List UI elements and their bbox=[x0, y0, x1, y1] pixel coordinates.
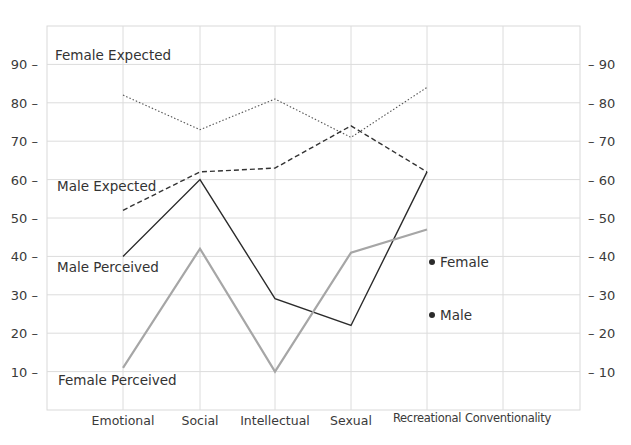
annotation-male-expected: Male Expected bbox=[57, 178, 156, 194]
grid bbox=[47, 26, 580, 410]
y-tick-right: – 20 bbox=[588, 326, 615, 341]
y-tick-right: – 50 bbox=[588, 211, 615, 226]
y-tick-right: – 70 bbox=[588, 134, 615, 149]
x-tick-label: Sexual bbox=[330, 413, 372, 428]
y-tick-left: 60 – bbox=[11, 173, 38, 188]
annotation-female-expected: Female Expected bbox=[55, 47, 171, 63]
y-axis-right: – 10– 20– 30– 40– 50– 60– 70– 80– 90 bbox=[588, 57, 615, 379]
y-tick-left: 40 – bbox=[11, 249, 38, 264]
annotation-male-perceived: Male Perceived bbox=[57, 259, 159, 275]
y-tick-left: 80 – bbox=[11, 96, 38, 111]
y-tick-right: – 30 bbox=[588, 288, 615, 303]
legend: Female Male bbox=[429, 254, 489, 323]
x-tick-label: Intellectual bbox=[240, 413, 310, 428]
x-tick-label: Recreational bbox=[393, 411, 461, 425]
y-tick-left: 70 – bbox=[11, 134, 38, 149]
y-tick-right: – 80 bbox=[588, 96, 615, 111]
x-axis: EmotionalSocialIntellectualSexualRecreat… bbox=[92, 411, 552, 428]
legend-male-label: Male bbox=[440, 307, 472, 323]
y-tick-right: – 40 bbox=[588, 249, 615, 264]
legend-female-label: Female bbox=[440, 254, 489, 270]
y-tick-left: 10 – bbox=[11, 365, 38, 380]
y-tick-right: – 60 bbox=[588, 173, 615, 188]
annotation-female-perceived: Female Perceived bbox=[58, 372, 177, 388]
line-chart: 10 –20 –30 –40 –50 –60 –70 –80 –90 – – 1… bbox=[0, 0, 631, 445]
x-tick-label: Conventionality bbox=[465, 411, 551, 425]
x-tick-label: Emotional bbox=[92, 413, 155, 428]
y-tick-left: 50 – bbox=[11, 211, 38, 226]
y-tick-left: 30 – bbox=[11, 288, 38, 303]
y-tick-right: – 10 bbox=[588, 365, 615, 380]
legend-female-dot-icon bbox=[429, 259, 435, 265]
legend-male-dot-icon bbox=[429, 312, 435, 318]
y-tick-left: 90 – bbox=[11, 57, 38, 72]
y-axis-left: 10 –20 –30 –40 –50 –60 –70 –80 –90 – bbox=[11, 57, 38, 379]
y-tick-left: 20 – bbox=[11, 326, 38, 341]
x-tick-label: Social bbox=[181, 413, 218, 428]
y-tick-right: – 90 bbox=[588, 57, 615, 72]
